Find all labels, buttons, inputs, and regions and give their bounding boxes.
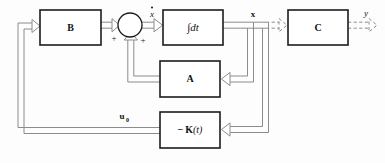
block-integrator[interactable]: ∫dt [163, 10, 223, 45]
xdot-accent-dot [151, 7, 153, 9]
block-c[interactable]: C [288, 10, 348, 45]
sum-sign-plus-right: + [140, 35, 145, 45]
connection-x-to-a [222, 22, 254, 85]
connection-sum-to-integrator [142, 19, 163, 32]
block-integrator-label: ∫dt [186, 21, 200, 34]
signal-label-x: x [251, 9, 256, 19]
block-k-gain[interactable]: − K(t) [160, 112, 220, 148]
signal-label-xdot-text: x [149, 9, 154, 19]
signal-label-u0-subscript: 0 [126, 117, 129, 123]
block-k-gain-label: − K(t) [178, 124, 204, 136]
connection-c-to-y [348, 19, 377, 32]
connection-b-to-sum [101, 19, 120, 32]
signal-label-xdot: x [149, 7, 154, 19]
block-diagram-canvas: B ∫dt C A − K(t) + + [0, 0, 385, 163]
signal-label-y: y [363, 8, 368, 18]
connection-integrator-to-c [223, 19, 287, 32]
block-a[interactable]: A [160, 61, 220, 97]
block-b[interactable]: B [40, 10, 101, 45]
block-diagram-svg: B ∫dt C A − K(t) + + [0, 0, 385, 163]
signal-label-u0: u 0 [119, 111, 129, 123]
block-a-label: A [186, 73, 194, 84]
signal-label-u0-text: u [119, 111, 124, 121]
block-c-label: C [314, 22, 321, 33]
sum-sign-plus-left: + [111, 33, 116, 43]
block-b-label: B [67, 22, 74, 33]
